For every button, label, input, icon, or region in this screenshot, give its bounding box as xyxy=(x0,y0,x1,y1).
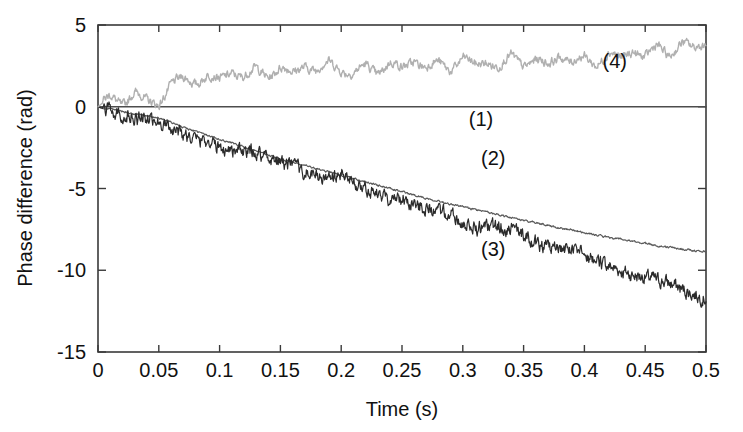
x-tick-label: 0.2 xyxy=(327,359,355,381)
x-tick-label: 0.35 xyxy=(504,359,543,381)
series-label-2: (2) xyxy=(481,147,505,169)
axis-tick-marks xyxy=(98,25,706,352)
x-tick-label: 0.15 xyxy=(261,359,300,381)
chart-canvas: 00.050.10.150.20.250.30.350.40.450.5 50-… xyxy=(0,0,743,432)
series-path-group xyxy=(98,39,706,308)
series-annotation-group: (1)(2)(3)(4) xyxy=(469,50,627,259)
phase-difference-chart: 00.050.10.150.20.250.30.350.40.450.5 50-… xyxy=(0,0,743,432)
x-tick-label: 0.05 xyxy=(139,359,178,381)
x-tick-label: 0.25 xyxy=(383,359,422,381)
y-tick-label: 5 xyxy=(75,14,86,36)
series-label-4: (4) xyxy=(603,50,627,72)
y-tick-label: -10 xyxy=(57,259,86,281)
plot-frame xyxy=(98,25,706,352)
y-tick-label: 0 xyxy=(75,96,86,118)
x-tick-label: 0.1 xyxy=(206,359,234,381)
y-tick-label: -5 xyxy=(68,178,86,200)
x-tick-label: 0 xyxy=(92,359,103,381)
series-line-2 xyxy=(98,107,706,253)
x-tick-label-group: 00.050.10.150.20.250.30.350.40.450.5 xyxy=(92,359,719,381)
x-axis-title: Time (s) xyxy=(366,398,439,420)
y-tick-label-group: 50-5-10-15 xyxy=(57,14,86,363)
series-line-3 xyxy=(98,102,706,307)
series-line-4 xyxy=(98,39,706,110)
x-tick-label: 0.45 xyxy=(626,359,665,381)
x-tick-label: 0.4 xyxy=(570,359,598,381)
x-tick-label: 0.3 xyxy=(449,359,477,381)
y-tick-label: -15 xyxy=(57,341,86,363)
series-label-1: (1) xyxy=(469,108,493,130)
x-tick-label: 0.5 xyxy=(692,359,720,381)
series-label-3: (3) xyxy=(481,238,505,260)
y-axis-title: Phase difference (rad) xyxy=(14,89,36,287)
